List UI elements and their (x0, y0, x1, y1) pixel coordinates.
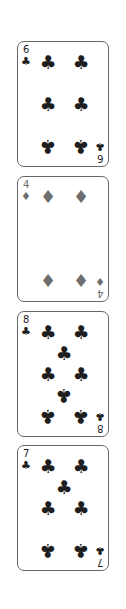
rank-label: 4 (97, 288, 103, 298)
rank-label: 6 (23, 45, 29, 55)
diamond-icon: ♦ (73, 272, 89, 290)
card-7-clubs[interactable]: 7 ♣ ♣ ♣ ♣ ♣ ♣ ♣ ♣ ♣ 7 (17, 445, 109, 571)
club-icon: ♣ (21, 56, 31, 67)
club-icon: ♣ (72, 457, 89, 476)
club-icon: ♣ (72, 365, 89, 384)
diamond-icon: ♦ (95, 276, 105, 287)
club-icon: ♣ (95, 545, 105, 556)
club-icon: ♣ (95, 141, 105, 152)
club-icon: ♣ (39, 53, 56, 72)
club-icon: ♣ (39, 457, 56, 476)
diamond-icon: ♦ (21, 191, 31, 202)
club-icon: ♣ (72, 541, 89, 560)
club-icon: ♣ (95, 411, 105, 422)
club-icon: ♣ (72, 95, 89, 114)
rank-label: 8 (97, 423, 103, 433)
club-icon: ♣ (39, 365, 56, 384)
club-icon: ♣ (39, 95, 56, 114)
club-icon: ♣ (39, 499, 56, 518)
club-icon: ♣ (55, 386, 72, 405)
rank-label: 7 (97, 557, 103, 567)
rank-label: 8 (23, 315, 29, 325)
club-icon: ♣ (39, 323, 56, 342)
club-icon: ♣ (72, 407, 89, 426)
club-icon: ♣ (39, 407, 56, 426)
rank-label: 6 (97, 153, 103, 163)
club-icon: ♣ (21, 460, 31, 471)
club-icon: ♣ (72, 499, 89, 518)
club-icon: ♣ (72, 137, 89, 156)
club-icon: ♣ (39, 137, 56, 156)
club-icon: ♣ (72, 323, 89, 342)
club-icon: ♣ (21, 326, 31, 337)
club-icon: ♣ (72, 53, 89, 72)
card-6-clubs[interactable]: 6 ♣ ♣ ♣ ♣ ♣ ♣ ♣ ♣ 6 (17, 41, 109, 167)
card-8-clubs[interactable]: 8 ♣ ♣ ♣ ♣ ♣ ♣ ♣ ♣ ♣ ♣ 8 (17, 311, 109, 437)
club-icon: ♣ (55, 478, 72, 497)
card-4-diamonds[interactable]: 4 ♦ ♦ ♦ ♦ ♦ ♦ 4 (17, 176, 109, 302)
diamond-icon: ♦ (40, 272, 56, 290)
diamond-icon: ♦ (73, 188, 89, 206)
rank-label: 4 (23, 180, 29, 190)
club-icon: ♣ (39, 541, 56, 560)
rank-label: 7 (23, 449, 29, 459)
club-icon: ♣ (55, 344, 72, 363)
diamond-icon: ♦ (40, 188, 56, 206)
